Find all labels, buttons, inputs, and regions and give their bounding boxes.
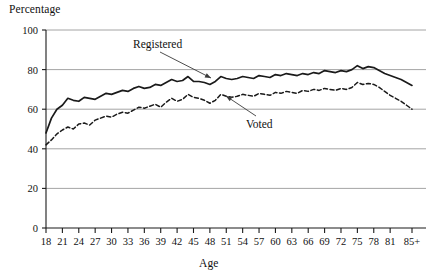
x-tick-label: 51 xyxy=(221,236,232,247)
x-tick-label: 18 xyxy=(41,236,52,247)
x-tick-label: 57 xyxy=(254,236,265,247)
axes xyxy=(46,30,426,228)
y-axis-ticks xyxy=(42,30,46,228)
x-tick-label: 39 xyxy=(155,236,166,247)
y-tick-label: 20 xyxy=(28,183,39,194)
series-line-voted xyxy=(46,82,412,144)
y-tick-label: 80 xyxy=(28,64,39,75)
x-tick-label: 63 xyxy=(287,236,298,247)
x-axis-ticks xyxy=(46,228,412,233)
x-tick-label: 75 xyxy=(352,236,363,247)
y-tick-label: 100 xyxy=(22,25,38,36)
y-tick-label: 60 xyxy=(28,104,39,115)
x-tick-label: 45 xyxy=(188,236,199,247)
x-tick-label: 30 xyxy=(106,236,117,247)
x-tick-label: 66 xyxy=(303,236,314,247)
x-tick-label: 48 xyxy=(205,236,216,247)
x-tick-label: 60 xyxy=(270,236,281,247)
leader-line-registered xyxy=(160,52,211,78)
y-tick-label: 40 xyxy=(28,143,39,154)
x-tick-label: 69 xyxy=(319,236,330,247)
x-tick-label: 54 xyxy=(237,236,248,247)
x-tick-label: 72 xyxy=(336,236,347,247)
x-tick-label: 36 xyxy=(139,236,150,247)
series-lines xyxy=(46,66,412,145)
x-tick-label: 81 xyxy=(385,236,396,247)
x-tick-label: 33 xyxy=(123,236,134,247)
x-tick-label: 42 xyxy=(172,236,183,247)
gridlines xyxy=(46,30,426,188)
voter-registration-chart: Percentage Age Registered Voted 18212427… xyxy=(0,0,431,278)
leader-arrow-registered xyxy=(205,73,211,78)
x-tick-label: 85+ xyxy=(404,236,420,247)
x-tick-label: 78 xyxy=(369,236,380,247)
x-tick-label: 24 xyxy=(74,236,85,247)
x-tick-label: 21 xyxy=(57,236,68,247)
x-tick-label: 27 xyxy=(90,236,101,247)
y-tick-label: 0 xyxy=(33,223,38,234)
